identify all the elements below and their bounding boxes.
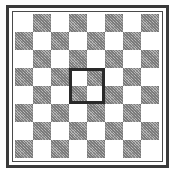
board-square[interactable]	[123, 140, 141, 158]
board-square[interactable]	[15, 50, 33, 68]
board-square[interactable]	[51, 122, 69, 140]
board-square[interactable]	[105, 122, 123, 140]
board-square[interactable]	[33, 86, 51, 104]
board-frame-inner	[12, 11, 163, 162]
board-square[interactable]	[123, 68, 141, 86]
board-square[interactable]	[15, 104, 33, 122]
board-square[interactable]	[105, 68, 123, 86]
board-square[interactable]	[51, 32, 69, 50]
board-square[interactable]	[33, 104, 51, 122]
board-square[interactable]	[87, 122, 105, 140]
board-square[interactable]	[15, 14, 33, 32]
board-square[interactable]	[33, 50, 51, 68]
board-square[interactable]	[15, 86, 33, 104]
board-square[interactable]	[33, 122, 51, 140]
board-frame-outer	[6, 5, 169, 168]
board-square[interactable]	[105, 32, 123, 50]
board-square[interactable]	[33, 32, 51, 50]
board-square[interactable]	[69, 122, 87, 140]
board-square[interactable]	[69, 14, 87, 32]
board-square[interactable]	[15, 122, 33, 140]
board-square[interactable]	[69, 68, 87, 86]
board-square[interactable]	[51, 104, 69, 122]
board-square[interactable]	[123, 104, 141, 122]
board-square[interactable]	[141, 50, 159, 68]
board-square[interactable]	[105, 50, 123, 68]
board-square[interactable]	[105, 104, 123, 122]
board-square[interactable]	[51, 14, 69, 32]
board-square[interactable]	[141, 104, 159, 122]
board-square[interactable]	[15, 68, 33, 86]
board-square[interactable]	[87, 68, 105, 86]
board-square[interactable]	[33, 14, 51, 32]
board-square[interactable]	[123, 122, 141, 140]
board-square[interactable]	[69, 140, 87, 158]
board-square[interactable]	[69, 50, 87, 68]
board-square[interactable]	[141, 140, 159, 158]
board-square[interactable]	[141, 68, 159, 86]
board-square[interactable]	[51, 86, 69, 104]
board-square[interactable]	[123, 14, 141, 32]
board-square[interactable]	[33, 140, 51, 158]
checkerboard[interactable]	[15, 14, 159, 158]
board-square[interactable]	[141, 86, 159, 104]
board-square[interactable]	[87, 14, 105, 32]
board-square[interactable]	[141, 14, 159, 32]
board-square[interactable]	[69, 32, 87, 50]
board-square[interactable]	[87, 86, 105, 104]
board-square[interactable]	[33, 68, 51, 86]
board-square[interactable]	[87, 32, 105, 50]
board-square[interactable]	[123, 86, 141, 104]
board-square[interactable]	[123, 50, 141, 68]
board-square[interactable]	[15, 140, 33, 158]
board-square[interactable]	[87, 140, 105, 158]
board-square[interactable]	[69, 104, 87, 122]
board-square[interactable]	[105, 86, 123, 104]
board-square[interactable]	[141, 32, 159, 50]
board-square[interactable]	[87, 104, 105, 122]
board-square[interactable]	[123, 32, 141, 50]
board-square[interactable]	[51, 68, 69, 86]
board-square[interactable]	[15, 32, 33, 50]
board-square[interactable]	[105, 140, 123, 158]
board-square[interactable]	[105, 14, 123, 32]
board-square[interactable]	[69, 86, 87, 104]
board-square[interactable]	[51, 50, 69, 68]
board-square[interactable]	[141, 122, 159, 140]
board-square[interactable]	[87, 50, 105, 68]
board-square[interactable]	[51, 140, 69, 158]
